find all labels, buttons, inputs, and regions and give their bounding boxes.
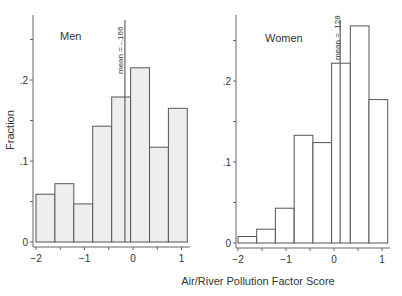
y-ticks-left: 0.1.2 <box>20 40 33 249</box>
bars-women <box>238 20 388 243</box>
panel-title-women: Women <box>265 32 303 44</box>
x-tick-label: −1 <box>280 254 292 265</box>
histogram-bar <box>150 147 169 242</box>
panel-women: 0.1.2 −2−101 Women mean = .128 <box>223 15 390 265</box>
histogram-bar <box>93 126 112 242</box>
y-tick-label: .1 <box>223 157 232 168</box>
histogram-bar <box>74 204 93 242</box>
panel-title-men: Men <box>60 30 81 42</box>
histogram-bar <box>313 143 332 243</box>
x-tick-label: 0 <box>331 254 337 265</box>
x-tick-label: −2 <box>30 253 42 264</box>
histogram-bar <box>55 184 74 242</box>
histogram-bar <box>332 63 351 243</box>
y-tick-label: 0 <box>22 237 28 248</box>
histogram-bar <box>369 100 388 243</box>
y-tick-label: .2 <box>223 76 232 87</box>
x-tick-label: −1 <box>79 253 91 264</box>
histogram-bar <box>350 26 369 243</box>
x-ticks-right: −2−101 <box>232 248 385 265</box>
histogram-bar <box>131 68 150 242</box>
histogram-bar <box>36 194 55 242</box>
y-tick-label: .2 <box>20 75 29 86</box>
mean-annotation-men: mean = -.166 <box>116 26 125 74</box>
histogram-bar <box>294 135 313 243</box>
x-tick-label: 1 <box>379 254 385 265</box>
mean-annotation-women: mean = .128 <box>333 15 342 60</box>
y-axis-title: Fraction <box>4 110 16 150</box>
x-tick-label: −2 <box>232 254 244 265</box>
histogram-bar <box>168 108 187 242</box>
histogram-bar <box>257 229 276 243</box>
x-ticks-left: −2−101 <box>30 247 184 264</box>
x-axis-title: Air/River Pollution Factor Score <box>181 275 334 287</box>
x-tick-label: 1 <box>179 253 185 264</box>
panel-men: 0.1.2 −2−101 Men mean = -.166 Fraction <box>4 15 190 264</box>
y-tick-label: 0 <box>225 238 231 249</box>
y-ticks-right: 0.1.2 <box>223 41 236 250</box>
y-tick-label: .1 <box>20 156 29 167</box>
histogram-bar <box>112 97 131 242</box>
bars-men <box>36 20 187 242</box>
histogram-bar <box>275 208 294 243</box>
histogram-bar <box>238 237 257 244</box>
x-tick-label: 0 <box>130 253 136 264</box>
histogram-figure: 0.1.2 −2−101 Men mean = -.166 Fraction 0… <box>0 0 402 296</box>
